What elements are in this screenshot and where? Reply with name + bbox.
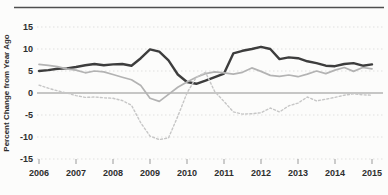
x-tick-label: 2008: [103, 168, 123, 178]
x-tick-label: 2009: [140, 168, 160, 178]
x-tick-label: 2012: [251, 168, 271, 178]
y-tick-label: -15: [20, 154, 33, 164]
y-tick-label: 5: [28, 66, 33, 76]
x-tick-label: 2006: [29, 168, 49, 178]
gray-solid-line: [39, 64, 372, 101]
x-tick-label: 2010: [177, 168, 197, 178]
y-tick-label: 10: [23, 44, 33, 54]
plot-area: 151050-5-10-1520062007200820092010201120…: [0, 0, 388, 195]
x-tick-label: 2007: [66, 168, 86, 178]
x-tick-label: 2011: [214, 168, 234, 178]
line-chart: 151050-5-10-1520062007200820092010201120…: [0, 0, 388, 195]
y-tick-label: -5: [25, 110, 33, 120]
dark-solid-line: [39, 47, 372, 84]
x-tick-label: 2015: [362, 168, 382, 178]
y-tick-label: -10: [20, 132, 33, 142]
x-tick-label: 2014: [325, 168, 345, 178]
x-tick-label: 2013: [288, 168, 308, 178]
light-dotted-line: [39, 72, 372, 139]
y-axis-title: Percent Change from Year Ago: [2, 34, 11, 151]
y-tick-label: 15: [23, 22, 33, 32]
y-tick-label: 0: [28, 88, 33, 98]
